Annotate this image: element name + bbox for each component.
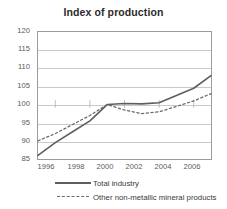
series-lines — [38, 32, 211, 159]
y-axis-tick-90: 90 — [4, 137, 30, 145]
x-axis-tick-1996: 1996 — [29, 163, 63, 171]
legend-swatch-dashed-line-icon — [55, 193, 91, 201]
y-axis-tick-120: 120 — [4, 27, 30, 35]
chart-title: Index of production — [0, 6, 227, 18]
x-axis-tick-2006: 2006 — [175, 163, 209, 171]
y-axis-tick-100: 100 — [4, 100, 30, 108]
chart-legend: Total industry Other non-metallic minera… — [0, 176, 227, 204]
y-axis-tick-110: 110 — [4, 63, 30, 71]
legend-swatch-solid-line-icon — [55, 179, 91, 187]
y-axis-tick-105: 105 — [4, 82, 30, 90]
legend-label-total-industry: Total industry — [93, 179, 139, 188]
y-axis-tick-115: 115 — [4, 45, 30, 53]
legend-item-other-non-metallic: Other non-metallic mineral products — [0, 190, 227, 204]
series-line-total-industry — [38, 76, 211, 156]
legend-item-total-industry: Total industry — [0, 176, 227, 190]
y-axis-tick-95: 95 — [4, 119, 30, 127]
y-axis-tick-85: 85 — [4, 155, 30, 163]
chart-container: Index of production 120 115 110 105 100 … — [0, 0, 227, 209]
plot-area — [37, 31, 212, 160]
legend-label-other-non-metallic: Other non-metallic mineral products — [93, 193, 217, 202]
